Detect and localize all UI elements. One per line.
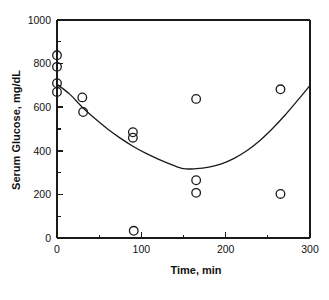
chart-figure: 020040060080010000100200300 Time, min Se… [0,0,329,300]
y-tick-label: 1000 [28,14,52,26]
x-tick-label: 100 [133,243,151,255]
y-tick-label: 400 [33,145,51,157]
y-tick-label: 800 [33,57,51,69]
x-tick-label: 0 [54,243,60,255]
y-tick-label: 200 [33,188,51,200]
y-tick-label: 600 [33,101,51,113]
x-tick-label: 300 [301,243,319,255]
y-axis-title: Serum Glucose, mg/dL [10,70,22,190]
x-tick-label: 200 [217,243,235,255]
x-axis-title: Time, min [170,264,221,276]
y-tick-label: 0 [45,232,51,244]
scatter-plot: 020040060080010000100200300 Time, min Se… [0,0,329,300]
